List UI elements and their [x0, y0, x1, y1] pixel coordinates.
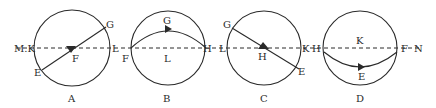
label-l: L — [164, 53, 171, 64]
label-l: L — [219, 43, 226, 54]
panel-a: M.K L G E F A — [14, 10, 119, 104]
label-e: E — [358, 71, 365, 82]
label-f: F — [401, 43, 408, 54]
label-n: N — [414, 43, 423, 54]
diagram-svg: M.K L G E F A F H G L B L K G E H — [0, 0, 436, 108]
arrow-icon — [165, 25, 172, 33]
arc-fgh — [131, 31, 206, 48]
caption-a: A — [67, 93, 76, 104]
diagram-figure: M.K L G E F A F H G L B L K G E H — [0, 0, 436, 108]
label-e: E — [298, 66, 305, 77]
caption-b: B — [163, 93, 170, 104]
arrow-icon — [66, 46, 76, 53]
label-e: E — [34, 67, 41, 78]
label-mk: M.K — [14, 43, 35, 54]
panel-d: H F N K E D — [312, 11, 423, 104]
label-g: G — [163, 15, 171, 26]
arrow-icon — [358, 63, 365, 71]
label-h: H — [258, 51, 267, 62]
label-g: G — [106, 19, 114, 30]
caption-d: D — [356, 93, 364, 104]
label-f: F — [122, 53, 129, 64]
label-l: L — [112, 43, 119, 54]
label-k: K — [302, 43, 310, 54]
label-k: K — [356, 35, 364, 46]
label-h: H — [203, 43, 212, 54]
label-g: G — [223, 19, 231, 30]
panel-c: L K G E H C — [219, 11, 310, 104]
label-h: H — [312, 43, 321, 54]
panel-b: F H G L B — [122, 11, 212, 104]
caption-c: C — [260, 93, 268, 104]
label-f: F — [72, 53, 79, 64]
